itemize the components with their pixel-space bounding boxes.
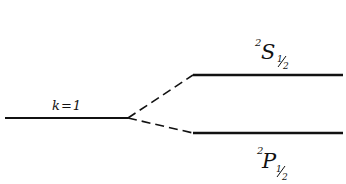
svg-text:P: P <box>261 149 277 173</box>
energy-level-diagram: k=1 2 S 1 2 2 P 1 2 <box>0 0 346 184</box>
lower-level-label: 2 P 1 2 <box>256 145 288 182</box>
connector-lower-dashed <box>128 118 193 133</box>
svg-text:2: 2 <box>282 61 289 71</box>
initial-level-label: k=1 <box>52 98 81 113</box>
svg-text:2: 2 <box>281 172 288 182</box>
upper-level-label: 2 S 1 2 <box>254 37 289 71</box>
connector-upper-dashed <box>128 75 193 118</box>
svg-text:S: S <box>261 40 275 64</box>
